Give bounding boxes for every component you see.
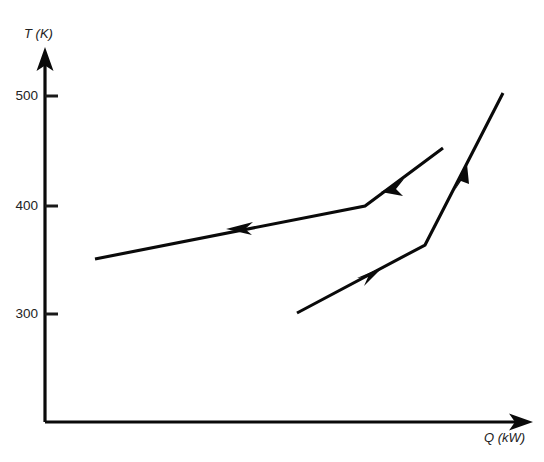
cold-stream-arrow-lower-icon [357, 267, 383, 286]
chart-svg: 500 400 300 T (K) Q (kW) [0, 0, 544, 462]
y-tick-label-500: 500 [15, 88, 38, 103]
x-axis-title: Q (kW) [484, 430, 525, 445]
cold-stream-arrow-upper-icon [455, 164, 469, 190]
y-tick-labels: 500 400 300 [15, 88, 38, 321]
y-tick-label-300: 300 [15, 306, 38, 321]
y-tick-label-400: 400 [15, 198, 38, 213]
cold-stream-path [297, 93, 503, 313]
y-tick-marks [45, 96, 58, 314]
tq-diagram-chart: 500 400 300 T (K) Q (kW) [0, 0, 544, 462]
y-axis-title: T (K) [24, 26, 53, 41]
cold-stream-curve [297, 93, 503, 313]
hot-stream-curve [95, 148, 443, 259]
hot-stream-path [95, 148, 443, 259]
x-axis-group [45, 414, 533, 431]
y-axis-group [37, 47, 54, 422]
